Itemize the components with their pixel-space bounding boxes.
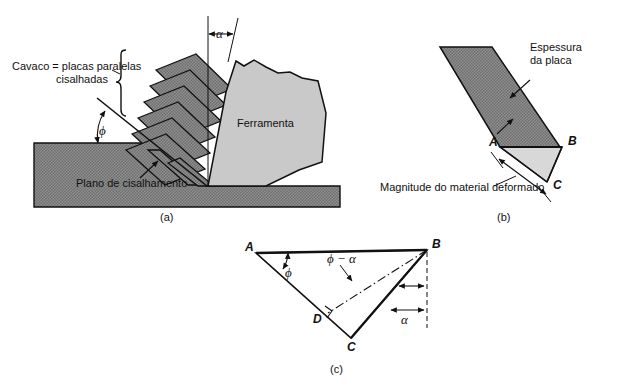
panel-b bbox=[440, 47, 562, 202]
point-d-label-c: D bbox=[313, 313, 322, 326]
point-a-label-c: A bbox=[245, 241, 254, 254]
plate-thickness-label-line1: Espessura bbox=[530, 41, 582, 54]
point-b-label-c: B bbox=[432, 238, 441, 251]
point-a-label-b: A bbox=[489, 136, 498, 149]
deformed-magnitude-label: Magnitude do material deformado bbox=[380, 181, 544, 194]
deformed-material-triangle bbox=[500, 147, 562, 182]
point-b-label-b: B bbox=[568, 135, 577, 148]
point-c-label-c: C bbox=[347, 341, 356, 354]
caption-c: (c) bbox=[330, 363, 343, 375]
alpha-angle-label-c: α bbox=[401, 313, 408, 326]
tool-label: Ferramenta bbox=[237, 117, 294, 130]
caption-a: (a) bbox=[160, 211, 173, 223]
phi-angle-label-c: ϕ bbox=[285, 266, 292, 279]
point-c-label-b: C bbox=[553, 179, 562, 192]
alpha-angle-label-a: α bbox=[216, 27, 223, 40]
edge-bc bbox=[351, 250, 427, 338]
shear-plane-label: Plano de cisalhamento bbox=[76, 177, 187, 190]
caption-b: (b) bbox=[497, 211, 510, 223]
rake-face-line bbox=[228, 18, 238, 62]
phi-angle-label-a: ϕ bbox=[99, 124, 106, 137]
plate-thickness-label-line2: da placa bbox=[530, 54, 572, 67]
phi-minus-alpha-leader bbox=[340, 265, 352, 281]
chip-label-line1: Cavaco = placas paralelas bbox=[12, 60, 141, 73]
phi-minus-alpha-label: ϕ − α bbox=[327, 252, 356, 265]
chip-label-line2: cisalhadas bbox=[56, 73, 108, 86]
